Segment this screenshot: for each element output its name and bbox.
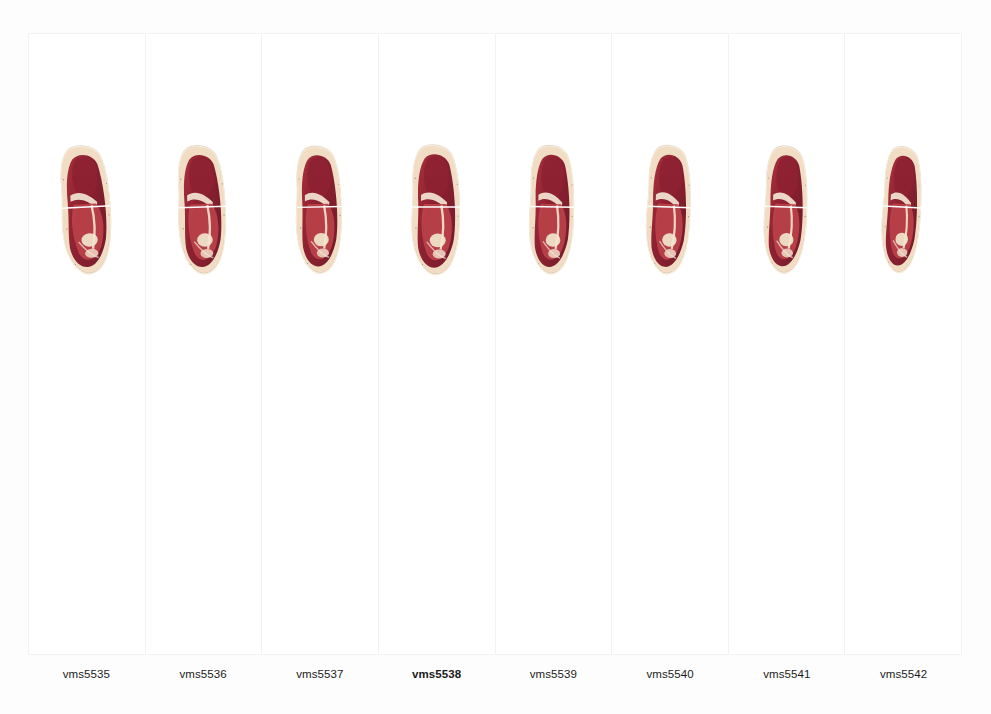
panel-vms5541[interactable] bbox=[729, 34, 846, 654]
panel-label-vms5536: vms5536 bbox=[145, 658, 262, 690]
measurement-line bbox=[297, 207, 342, 208]
specimen-vms5541 bbox=[750, 129, 824, 280]
panel-grid bbox=[28, 33, 962, 655]
specimen-panel-figure: vms5535vms5536vms5537vms5538vms5539vms55… bbox=[0, 0, 991, 714]
specimen-vms5540 bbox=[633, 128, 708, 280]
panel-vms5535[interactable] bbox=[29, 34, 146, 654]
measurement-line bbox=[531, 207, 575, 208]
specimen-vms5542 bbox=[867, 129, 940, 279]
specimen-vms5537 bbox=[283, 129, 357, 279]
panel-label-vms5539: vms5539 bbox=[495, 658, 612, 690]
panel-vms5542[interactable] bbox=[845, 34, 961, 654]
panel-label-row: vms5535vms5536vms5537vms5538vms5539vms55… bbox=[28, 658, 962, 690]
specimen-cross-section-image bbox=[867, 129, 940, 279]
specimen-cross-section-image bbox=[165, 128, 243, 280]
specimen-cross-section-image bbox=[46, 127, 128, 281]
panel-vms5539[interactable] bbox=[496, 34, 613, 654]
panel-vms5540[interactable] bbox=[612, 34, 729, 654]
specimen-vms5536 bbox=[165, 128, 243, 280]
panel-label-vms5540: vms5540 bbox=[612, 658, 729, 690]
panel-vms5536[interactable] bbox=[146, 34, 263, 654]
panel-label-vms5541: vms5541 bbox=[729, 658, 846, 690]
specimen-cross-section-image bbox=[400, 128, 473, 280]
specimen-cross-section-image bbox=[517, 128, 590, 279]
specimen-vms5538 bbox=[400, 128, 473, 280]
specimen-cross-section-image bbox=[283, 129, 357, 279]
panel-label-vms5542: vms5542 bbox=[845, 658, 962, 690]
specimen-cross-section-image bbox=[633, 128, 708, 280]
specimen-vms5535 bbox=[46, 127, 128, 281]
specimen-cross-section-image bbox=[750, 129, 824, 280]
specimen-vms5539 bbox=[517, 128, 590, 279]
panel-label-vms5537: vms5537 bbox=[262, 658, 379, 690]
panel-vms5538[interactable] bbox=[379, 34, 496, 654]
upper-muscle-lobe bbox=[424, 156, 449, 198]
panel-label-vms5538: vms5538 bbox=[378, 658, 495, 690]
panel-label-vms5535: vms5535 bbox=[28, 658, 145, 690]
panel-vms5537[interactable] bbox=[262, 34, 379, 654]
